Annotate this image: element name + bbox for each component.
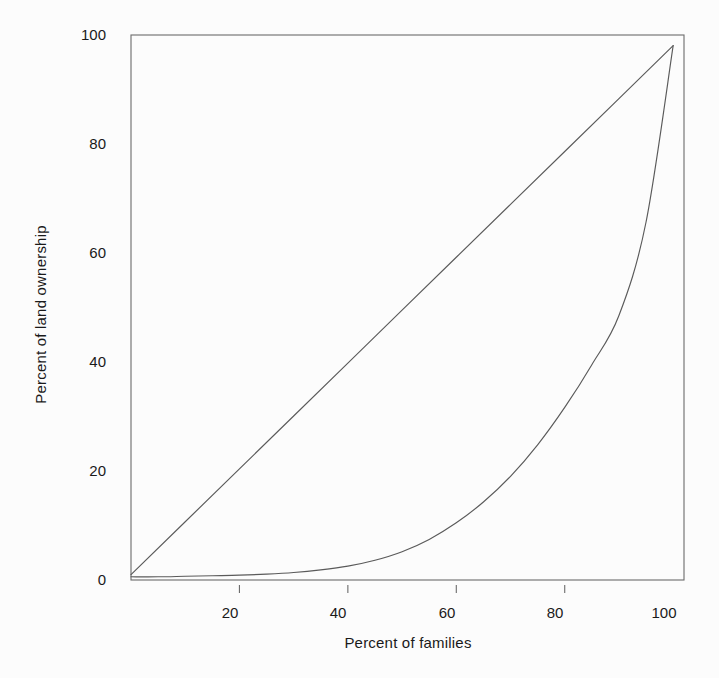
plot-area (0, 0, 719, 678)
series-line-equality (131, 46, 673, 575)
x-tick-marks (239, 585, 564, 593)
chart-figure: Percent of land ownership Percent of fam… (0, 0, 719, 678)
